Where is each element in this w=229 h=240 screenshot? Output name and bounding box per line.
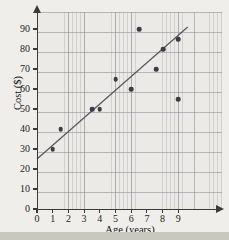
x-tick-label-9: 9 <box>168 214 188 224</box>
y-tick-70 <box>33 68 37 69</box>
data-point <box>58 127 63 132</box>
data-point <box>98 107 103 112</box>
y-tick-90 <box>33 28 37 29</box>
data-point <box>137 27 142 32</box>
data-point <box>50 147 55 152</box>
y-axis-arrow-icon <box>33 5 41 13</box>
y-axis-label: Cost ($) <box>12 58 23 128</box>
y-tick-label-80: 80 <box>0 44 30 54</box>
data-point <box>176 37 181 42</box>
data-point <box>90 107 95 112</box>
y-axis <box>37 12 38 210</box>
data-point <box>161 47 166 52</box>
y-tick-30 <box>33 148 37 149</box>
plot-grid-area <box>37 12 222 210</box>
data-point <box>113 77 118 82</box>
y-tick-label-30: 30 <box>0 144 30 154</box>
y-tick-60 <box>33 88 37 89</box>
y-tick-label-90: 90 <box>0 24 30 34</box>
x-axis <box>37 209 222 210</box>
y-tick-label-20: 20 <box>0 164 30 174</box>
y-tick-label-10: 10 <box>0 184 30 194</box>
y-tick-80 <box>33 48 37 49</box>
x-axis-arrow-icon <box>216 205 224 213</box>
data-point <box>129 87 134 92</box>
data-point <box>154 67 159 72</box>
y-tick-20 <box>33 168 37 169</box>
y-tick-50 <box>33 108 37 109</box>
scatter-plot-figure: 0102030405060708090 0123456789 Cost ($) … <box>0 0 229 232</box>
bottom-border-strip <box>0 232 229 240</box>
y-tick-label-0: 0 <box>0 204 30 214</box>
y-axis-label-wrap: Cost ($) <box>12 58 26 128</box>
y-tick-40 <box>33 128 37 129</box>
y-tick-10 <box>33 188 37 189</box>
data-point <box>176 97 181 102</box>
